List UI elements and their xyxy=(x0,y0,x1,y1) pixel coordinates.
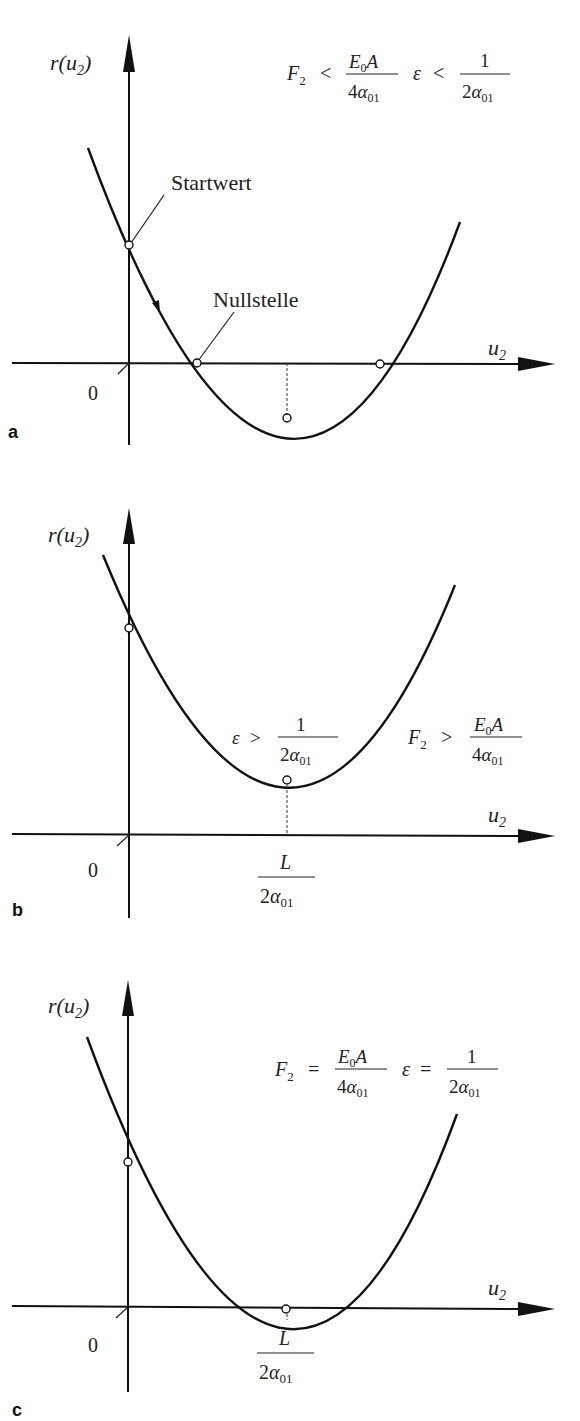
svg-text:E0A: E0A xyxy=(473,714,504,738)
panel-label-b: b xyxy=(12,900,23,920)
panel-b: r(u2) u2 0 b L 2α01 ε > 1 2α01 F2 > E0A … xyxy=(12,508,555,920)
svg-text:4α01: 4α01 xyxy=(472,744,503,768)
panel-label-a: a xyxy=(8,422,19,442)
svg-text:F2: F2 xyxy=(286,62,306,88)
svg-text:2α01: 2α01 xyxy=(280,744,311,768)
svg-text:>: > xyxy=(441,726,452,748)
panel-c: r(u2) u2 0 c L 2α01 F2 = E0A 4α01 ε = 1 … xyxy=(12,980,555,1420)
x-axis-label: u2 xyxy=(488,802,506,830)
nullstelle-point xyxy=(193,359,201,367)
x-axis-c xyxy=(12,1306,520,1309)
figure-canvas: r(u2) u2 0 a Startwert Nullstelle F2 < E… xyxy=(0,0,580,1421)
y-axis-label: r(u2) xyxy=(50,50,91,78)
svg-text:1: 1 xyxy=(296,714,306,735)
svg-text:=: = xyxy=(308,1058,319,1080)
nullstelle-label: Nullstelle xyxy=(213,287,299,312)
origin-tick xyxy=(118,363,129,374)
startwert-point xyxy=(124,1158,132,1166)
svg-text:1: 1 xyxy=(480,50,490,71)
svg-text:4α01: 4α01 xyxy=(337,1076,368,1100)
x-tick-label-c: L 2α01 xyxy=(257,1327,314,1386)
svg-text:<: < xyxy=(320,62,331,84)
origin-label: 0 xyxy=(88,382,98,404)
svg-text:2α01: 2α01 xyxy=(259,1361,293,1386)
svg-text:F2: F2 xyxy=(274,1058,294,1084)
condition-strain-c: ε = 1 2α01 xyxy=(402,1046,498,1100)
startwert-leader xyxy=(131,195,164,243)
panel-a: r(u2) u2 0 a Startwert Nullstelle F2 < E… xyxy=(8,35,555,445)
svg-text:4α01: 4α01 xyxy=(348,81,379,105)
svg-text:2α01: 2α01 xyxy=(260,885,294,910)
svg-text:ε: ε xyxy=(402,1058,410,1080)
condition-force-b: F2 > E0A 4α01 xyxy=(407,714,522,768)
svg-text:2α01: 2α01 xyxy=(462,81,493,105)
panel-label-c: c xyxy=(12,1400,22,1420)
startwert-point xyxy=(125,241,133,249)
svg-text:L: L xyxy=(279,851,291,873)
y-axis-arrow-icon xyxy=(123,35,135,72)
x-axis-arrow-icon xyxy=(518,1302,555,1316)
svg-text:2α01: 2α01 xyxy=(449,1076,480,1100)
svg-text:F2: F2 xyxy=(407,726,427,752)
condition-strain-a: ε < 1 2α01 xyxy=(413,50,510,105)
startwert-label: Startwert xyxy=(171,170,252,195)
second-root-point xyxy=(376,360,384,368)
y-axis-label: r(u2) xyxy=(48,993,89,1021)
svg-text:ε: ε xyxy=(413,62,421,84)
origin-tick xyxy=(116,1307,128,1318)
condition-force-c: F2 = E0A 4α01 xyxy=(274,1046,387,1100)
residual-curve-c xyxy=(87,1037,457,1329)
x-axis-arrow-icon xyxy=(518,829,555,843)
x-axis-label: u2 xyxy=(488,335,506,363)
minimum-point xyxy=(283,414,291,422)
svg-text:E0A: E0A xyxy=(348,51,379,75)
svg-text:>: > xyxy=(250,727,261,748)
iteration-direction-line xyxy=(140,272,157,306)
minimum-root-point xyxy=(282,1305,290,1313)
y-axis-arrow-icon xyxy=(123,508,135,544)
condition-strain-b: ε > 1 2α01 xyxy=(232,714,338,768)
residual-curve-b xyxy=(103,555,455,788)
startwert-point xyxy=(125,624,133,632)
svg-text:E0A: E0A xyxy=(337,1046,368,1070)
x-axis-arrow-icon xyxy=(518,357,555,371)
svg-text:<: < xyxy=(433,62,444,84)
minimum-point xyxy=(283,776,291,784)
y-axis-label: r(u2) xyxy=(48,522,89,550)
origin-label: 0 xyxy=(88,859,98,881)
y-axis-arrow-icon xyxy=(122,980,134,1016)
svg-text:L: L xyxy=(278,1327,290,1349)
x-axis-label: u2 xyxy=(488,1275,506,1303)
x-tick-label-b: L 2α01 xyxy=(258,851,315,910)
origin-label: 0 xyxy=(88,1334,98,1356)
svg-text:=: = xyxy=(420,1058,431,1080)
nullstelle-leader xyxy=(198,312,234,361)
condition-force-a: F2 < E0A 4α01 xyxy=(286,51,398,105)
x-axis-b xyxy=(12,834,520,836)
x-axis-a xyxy=(12,363,520,364)
origin-tick xyxy=(117,835,129,846)
svg-text:ε: ε xyxy=(232,727,240,748)
svg-text:1: 1 xyxy=(467,1046,477,1067)
